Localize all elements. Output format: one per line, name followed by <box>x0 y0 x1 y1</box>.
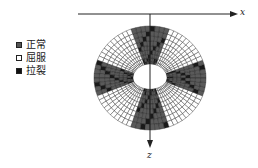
mesh-cell <box>195 82 201 87</box>
z-axis-arrow-icon <box>147 140 153 148</box>
legend-item-crack: 拉裂 <box>16 64 46 77</box>
failure-zone-diagram <box>0 0 258 168</box>
mesh-cell <box>114 75 119 78</box>
mesh-cell <box>154 26 159 32</box>
mesh-cell <box>201 74 207 79</box>
mesh-cell <box>190 74 195 78</box>
mesh-cell <box>177 78 181 80</box>
legend-item-normal: 正常 <box>16 38 46 51</box>
mesh-cell <box>190 78 195 82</box>
mesh-cell <box>145 26 150 31</box>
mesh-cell <box>127 76 131 78</box>
mesh-cell <box>150 124 155 130</box>
mesh-cell <box>186 78 191 81</box>
mesh-cell <box>200 82 206 87</box>
mesh-cell <box>110 72 115 76</box>
mesh-cell <box>150 119 154 125</box>
mesh-cell <box>94 74 100 79</box>
normal-swatch-icon <box>16 42 22 48</box>
mesh-cell <box>94 78 100 83</box>
mesh-cell <box>94 69 100 74</box>
mesh-cell <box>141 118 146 124</box>
mesh-cell <box>150 31 154 36</box>
legend-label-yield: 屈服 <box>26 51 46 64</box>
mesh-cell <box>147 109 151 114</box>
crack-swatch-icon <box>16 68 22 74</box>
mesh-cell <box>167 78 170 79</box>
mesh-cell <box>140 124 145 130</box>
mesh-cell <box>181 78 186 81</box>
legend-label-normal: 正常 <box>26 38 46 51</box>
mesh-cell <box>150 41 154 46</box>
mesh-cell <box>123 76 127 78</box>
mesh-cell <box>201 78 207 83</box>
mesh-cell <box>119 76 123 78</box>
mesh-cell <box>99 74 104 78</box>
mesh-cell <box>150 26 155 31</box>
mesh-cell <box>110 75 115 78</box>
mesh-cell <box>146 31 150 36</box>
mesh-cell <box>153 41 157 46</box>
mesh-cell <box>195 78 200 82</box>
mesh-cell <box>154 31 159 37</box>
legend-label-crack: 拉裂 <box>26 64 46 77</box>
mesh-cell <box>154 36 158 41</box>
mesh-cell <box>105 71 110 75</box>
x-axis-label: x <box>240 7 245 17</box>
x-axis-arrow-icon <box>230 11 238 17</box>
yield-swatch-icon <box>16 55 22 61</box>
mesh-cell <box>143 108 147 113</box>
mesh-cell <box>173 78 177 80</box>
mesh-cell <box>146 119 150 125</box>
legend-item-yield: 屈服 <box>16 51 46 64</box>
mesh-cell <box>142 113 146 119</box>
mesh-cell <box>105 74 110 78</box>
mesh-cell <box>150 36 154 41</box>
mesh-cell <box>146 114 150 119</box>
legend: 正常 屈服 拉裂 <box>16 38 46 77</box>
mesh-cell <box>100 70 106 75</box>
mesh-cell <box>169 78 173 80</box>
mesh-cell <box>145 124 150 130</box>
z-axis-label: z <box>147 150 152 160</box>
mesh-cell <box>131 77 134 78</box>
mesh-cell <box>99 78 104 82</box>
